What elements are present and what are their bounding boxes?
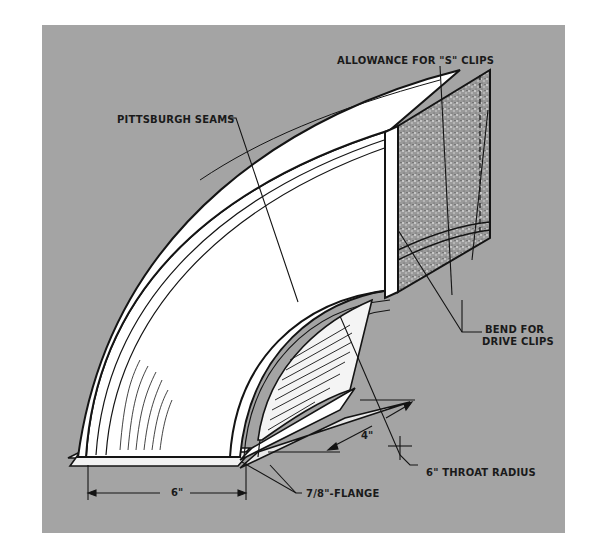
callout-drive-clips: DRIVE CLIPS: [482, 336, 554, 347]
callout-throat-radius: 6" THROAT RADIUS: [426, 467, 536, 478]
callout-bend-for: BEND FOR: [485, 324, 544, 335]
callout-pittsburgh-seams: PITTSBURGH SEAMS: [117, 114, 235, 125]
callout-s-clips: ALLOWANCE FOR "S" CLIPS: [337, 55, 494, 66]
callout-flange: 7/8"-FLANGE: [306, 488, 379, 499]
dimension-depth: 4": [361, 430, 373, 441]
dimension-width: 6": [171, 487, 183, 498]
